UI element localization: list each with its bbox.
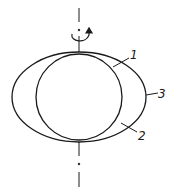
ellipsoid-outline <box>12 52 146 142</box>
label-1: 1 <box>130 48 138 62</box>
label-3: 3 <box>158 87 166 101</box>
rotation-arrow-icon <box>72 28 92 41</box>
label-2: 2 <box>138 129 146 143</box>
rotation-axis-bottom <box>78 142 80 187</box>
leader-line-3 <box>146 93 158 95</box>
sphere-outline <box>36 54 122 140</box>
rotation-axis-top <box>78 8 80 52</box>
rotation-body-diagram: 1 3 2 <box>0 0 179 193</box>
